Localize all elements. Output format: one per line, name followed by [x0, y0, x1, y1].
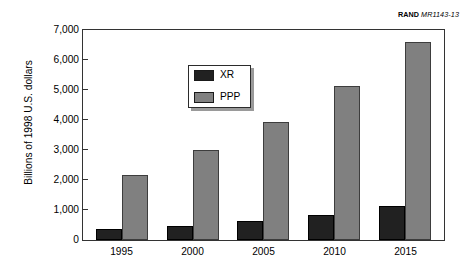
bar-group-2005 — [237, 30, 289, 240]
chart-figure: RANDMR1143-13 Billions of 1998 U.S. doll… — [0, 0, 470, 278]
legend-label-ppp: PPP — [220, 92, 240, 102]
chart-legend: XR PPP — [188, 65, 251, 108]
x-axis-label-1995: 1995 — [95, 246, 148, 262]
y-tick-label: 6,000 — [54, 55, 84, 65]
bar-group-2000 — [167, 30, 219, 240]
source-credit-code: MR1143-13 — [421, 10, 459, 19]
legend-swatch-ppp — [194, 92, 214, 103]
bar-ppp-2015 — [405, 42, 431, 240]
x-axis-label-2000: 2000 — [166, 246, 219, 262]
y-axis-title: Billions of 1998 U.S. dollars — [23, 23, 34, 223]
source-credit: RANDMR1143-13 — [398, 10, 459, 19]
y-tick-label: 4,000 — [54, 115, 84, 125]
bar-ppp-1995 — [122, 175, 148, 240]
legend-item-xr: XR — [194, 70, 245, 81]
source-credit-org: RAND — [398, 10, 419, 19]
x-axis-label-2015: 2015 — [379, 246, 432, 262]
bar-xr-2015 — [379, 206, 405, 240]
bar-groups — [83, 30, 444, 240]
y-tick-label: 3,000 — [54, 145, 84, 155]
bar-ppp-2005 — [263, 122, 289, 241]
y-tick-label: 1,000 — [54, 205, 84, 215]
x-axis-label-2005: 2005 — [237, 246, 290, 262]
y-tick-label: 0 — [73, 235, 83, 245]
bar-xr-2000 — [167, 226, 193, 240]
bar-ppp-2010 — [334, 86, 360, 241]
bar-ppp-2000 — [193, 150, 219, 240]
bar-group-1995 — [96, 30, 148, 240]
bar-group-2010 — [308, 30, 360, 240]
bar-xr-1995 — [96, 229, 122, 240]
bar-xr-2005 — [237, 221, 263, 240]
bar-xr-2010 — [308, 215, 334, 240]
y-tick-label: 2,000 — [54, 175, 84, 185]
x-axis-labels: 19952000200520102015 — [82, 246, 445, 262]
y-tick-label: 7,000 — [54, 25, 84, 35]
bar-group-2015 — [379, 30, 431, 240]
x-axis-label-2010: 2010 — [308, 246, 361, 262]
y-tick-label: 5,000 — [54, 85, 84, 95]
plot-area: 01,0002,0003,0004,0005,0006,0007,000 XR … — [82, 29, 445, 241]
legend-label-xr: XR — [220, 70, 234, 80]
legend-item-ppp: PPP — [194, 92, 245, 103]
legend-swatch-xr — [194, 70, 214, 81]
